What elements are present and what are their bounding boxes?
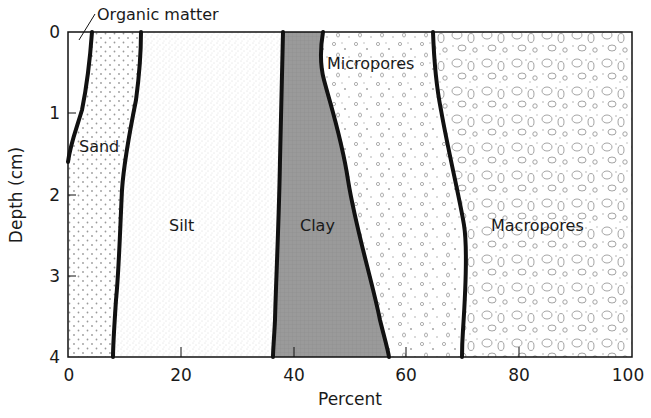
label-silt: Silt (169, 216, 194, 235)
y-tick-1: 1 (49, 103, 60, 123)
x-tick-labels: 0 20 40 60 80 100 (64, 365, 645, 385)
x-tick-40: 40 (283, 365, 305, 385)
y-tick-2: 2 (49, 185, 60, 205)
x-tick-60: 60 (395, 365, 417, 385)
x-axis-title: Percent (318, 389, 382, 409)
soil-composition-chart: 0 1 2 3 4 0 20 40 60 80 100 Percent Dept… (0, 0, 651, 418)
x-tick-80: 80 (508, 365, 530, 385)
x-tick-20: 20 (170, 365, 192, 385)
label-macropores: Macropores (491, 216, 584, 235)
x-tick-0: 0 (64, 365, 75, 385)
label-sand: Sand (79, 137, 119, 156)
label-micropores: Micropores (327, 54, 414, 73)
x-tick-100: 100 (612, 365, 644, 385)
y-axis-title: Depth (cm) (6, 147, 26, 243)
y-tick-3: 3 (49, 266, 60, 286)
y-tick-labels: 0 1 2 3 4 (49, 22, 60, 367)
y-tick-4: 4 (49, 347, 60, 367)
label-organic-matter: Organic matter (97, 5, 219, 24)
label-clay: Clay (300, 216, 335, 235)
y-tick-0: 0 (49, 22, 60, 42)
